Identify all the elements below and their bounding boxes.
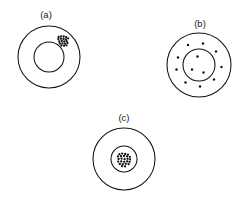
panel-a-label: (a)	[40, 9, 52, 20]
panel-b-particle	[220, 66, 222, 68]
panel-a-cluster-dot	[65, 44, 67, 46]
panel-c-cluster-dot	[117, 158, 119, 160]
panel-b-particle	[177, 56, 179, 58]
panel-c-cluster-dot	[125, 163, 127, 165]
panel-c-cluster-dot	[129, 158, 131, 160]
panel-c-cluster-dot	[123, 158, 125, 160]
panel-b-label: (b)	[194, 18, 206, 29]
panel-a-cluster-dot	[59, 42, 61, 44]
figure-background	[0, 0, 249, 201]
panel-a-cluster-dot	[61, 42, 63, 44]
panel-a-cluster-dot	[65, 36, 67, 38]
panel-b-particle	[184, 81, 186, 83]
panel-a-cluster-dot	[66, 42, 68, 44]
panel-c-cluster-dot	[120, 157, 122, 159]
figure-container: (a)(b)(c)	[0, 0, 249, 201]
panel-b-particle	[196, 55, 198, 57]
panel-c-cluster-dot	[124, 153, 126, 155]
panel-c-cluster-dot	[117, 155, 119, 157]
panel-c-cluster-dot	[120, 155, 122, 157]
panel-a-cluster-dot	[67, 37, 69, 39]
panel-b-particle	[199, 85, 201, 87]
panel-b-particle	[187, 44, 189, 46]
panel-c-cluster-dot	[120, 160, 122, 162]
panel-b-particle	[175, 68, 177, 70]
panel-c-cluster-dot	[121, 152, 123, 154]
panel-a-cluster-dot	[57, 38, 59, 40]
panel-a-cluster-dot	[58, 40, 60, 42]
panel-b-particle	[213, 78, 215, 80]
panel-c-cluster-dot	[126, 160, 128, 162]
panel-b-particle	[202, 71, 204, 73]
panel-a-cluster-dot	[60, 35, 62, 37]
panel-c-cluster-dot	[123, 161, 125, 163]
panel-b-particle	[202, 42, 204, 44]
panel-c-cluster-dot	[129, 156, 131, 158]
panel-c-cluster-dot	[127, 163, 129, 165]
panel-c-cluster-dot	[124, 165, 126, 167]
panel-b-particle	[215, 50, 217, 52]
panel-c-cluster-dot	[118, 153, 120, 155]
panel-c-cluster-dot	[121, 165, 123, 167]
panel-c-label: (c)	[118, 112, 129, 123]
panel-c-cluster-dot	[126, 158, 128, 160]
panel-c-cluster-dot	[123, 155, 125, 157]
particle-distribution-figure: (a)(b)(c)	[0, 0, 249, 201]
panel-a-cluster-dot	[60, 44, 62, 46]
panel-a-cluster-dot	[60, 38, 62, 40]
panel-c-cluster-dot	[119, 163, 121, 165]
panel-b-particle	[191, 68, 193, 70]
panel-c-cluster-dot	[126, 155, 128, 157]
panel-a-cluster-dot	[63, 35, 65, 37]
panel-c-cluster-dot	[128, 161, 130, 163]
panel-a-cluster-dot	[63, 40, 65, 42]
panel-c-cluster-dot	[122, 163, 124, 165]
panel-a-cluster-dot	[58, 36, 60, 38]
panel-a-cluster-dot	[61, 40, 63, 42]
panel-a-cluster-dot	[63, 45, 65, 47]
panel-c-cluster-dot	[117, 160, 119, 162]
panel-a-cluster-dot	[62, 38, 64, 40]
